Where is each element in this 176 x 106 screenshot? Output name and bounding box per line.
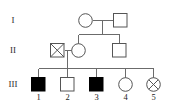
individual-iii-3-male-affected[interactable] [90, 78, 104, 92]
pedigree-canvas: I II III [0, 0, 176, 106]
individual-ii-3-male-unaffected[interactable] [113, 44, 127, 58]
individual-iii-1-male-affected[interactable] [32, 78, 46, 92]
pedigree-chart: I II III [0, 0, 176, 106]
individual-label-iii-4: 4 [123, 92, 128, 102]
individual-label-iii-2: 2 [65, 92, 69, 102]
individual-label-iii-3: 3 [94, 92, 98, 102]
individual-ii-1-male-deceased[interactable] [51, 44, 65, 58]
individual-iii-2-male-unaffected[interactable] [61, 78, 75, 92]
individual-label-iii-1: 1 [36, 92, 40, 102]
individual-i-1-female-unaffected[interactable] [79, 14, 93, 28]
individual-iii-4-female-unaffected[interactable] [119, 78, 133, 92]
generation-label-i: I [12, 15, 15, 25]
individual-ii-2-female-unaffected[interactable] [72, 44, 86, 58]
individual-label-iii-5: 5 [151, 92, 155, 102]
individual-iii-5-female-deceased[interactable] [147, 78, 161, 92]
generation-label-iii: III [9, 79, 18, 89]
generation-label-ii: II [10, 45, 16, 55]
individual-i-2-male-unaffected[interactable] [114, 14, 128, 28]
